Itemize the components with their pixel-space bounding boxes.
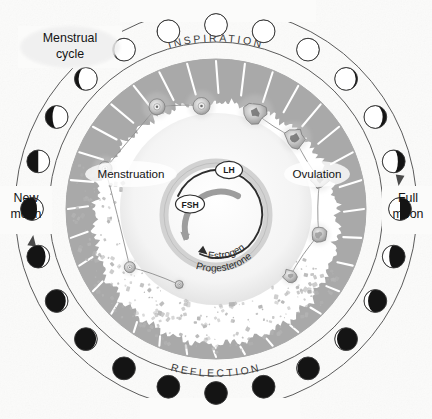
shed-tissue-fragment — [156, 304, 159, 306]
follicle-graafian — [185, 89, 219, 123]
lh-label: LH — [223, 165, 234, 175]
moon-waxing-crescent-4 — [45, 290, 68, 313]
moon-waxing-crescent-2 — [113, 357, 136, 380]
shed-tissue-fragment — [270, 330, 274, 335]
shed-tissue-fragment — [300, 315, 304, 319]
shed-tissue-fragment — [184, 345, 189, 349]
shed-tissue-fragment — [129, 281, 132, 284]
moon-waxing-crescent-5 — [27, 245, 50, 268]
follicle-primordial — [171, 277, 187, 293]
moon-waning-gibbous-5 — [382, 150, 405, 173]
title-label-group: Menstrual cycle — [20, 26, 120, 68]
moon-new-moon — [205, 382, 228, 405]
shed-tissue-fragment — [91, 233, 93, 235]
shed-tissue-fragment — [96, 290, 101, 294]
shed-tissue-fragment — [147, 329, 151, 332]
new-moon-label-line2: moon — [11, 207, 42, 221]
corpus-luteum-early — [277, 120, 313, 156]
moon-waning-gibbous-4 — [364, 106, 387, 129]
corpus-albicans — [278, 264, 302, 288]
moon-waning-gibbous-3 — [335, 67, 358, 90]
diagram-canvas: INSPIRATION REFLECTION — [0, 0, 432, 419]
title-line-1: Menstrual — [43, 31, 97, 45]
menstrual-moon-cycle-diagram: INSPIRATION REFLECTION — [0, 0, 432, 419]
shed-tissue-fragment — [271, 286, 274, 290]
shed-tissue-fragment — [276, 332, 280, 336]
fsh-marker: FSH — [176, 195, 205, 213]
full-moon-label-line2: moon — [393, 207, 424, 221]
shed-tissue-fragment — [274, 294, 279, 299]
follicle-primary — [119, 256, 141, 278]
moon-waning-gibbous-2 — [297, 38, 320, 61]
moon-first-quarter — [27, 150, 50, 173]
shed-tissue-fragment — [307, 290, 311, 294]
shed-tissue-fragment — [320, 301, 324, 305]
moon-waning-crescent-3 — [335, 328, 358, 351]
shed-tissue-fragment — [171, 316, 175, 320]
shed-tissue-fragment — [194, 321, 197, 324]
shed-tissue-fragment — [74, 220, 78, 224]
ovulation-label: Ovulation — [293, 167, 342, 180]
shed-tissue-fragment — [110, 217, 112, 220]
moon-waxing-gibbous-2 — [74, 67, 97, 90]
shed-tissue-fragment — [119, 187, 123, 192]
shed-tissue-fragment — [94, 259, 99, 263]
shed-tissue-fragment — [142, 325, 146, 328]
moon-waning-crescent-5 — [252, 375, 275, 398]
shed-tissue-fragment — [272, 316, 275, 319]
title-line-2: cycle — [56, 47, 84, 61]
shed-tissue-fragment — [101, 205, 104, 208]
shed-tissue-fragment — [100, 234, 102, 236]
moon-full-moon — [205, 14, 228, 37]
full-moon-label-line1: Full — [398, 191, 418, 205]
lh-marker: LH — [216, 161, 243, 178]
moon-waning-crescent-4 — [297, 357, 320, 380]
moon-waning-crescent-2 — [364, 290, 387, 313]
shed-tissue-fragment — [197, 316, 201, 320]
corpus-luteum-forming — [235, 93, 275, 133]
endometrial-gland — [343, 237, 361, 238]
shed-tissue-fragment — [155, 334, 158, 337]
moon-waning-crescent-1 — [382, 245, 405, 268]
moon-waxing-crescent-1 — [157, 375, 180, 398]
shed-tissue-fragment — [83, 197, 89, 202]
shed-tissue-fragment — [89, 238, 91, 241]
fsh-label: FSH — [181, 200, 198, 210]
moon-waning-gibbous-1 — [252, 20, 275, 43]
moon-waxing-gibbous-4 — [157, 20, 180, 43]
new-moon-label-line1: New — [14, 191, 39, 205]
shed-tissue-fragment — [124, 285, 126, 287]
shed-tissue-fragment — [312, 268, 314, 270]
follicle-tertiary — [141, 91, 173, 123]
corpus-luteum-regressing — [305, 220, 334, 249]
menstruation-label: Menstruation — [97, 167, 164, 180]
shed-tissue-fragment — [310, 273, 314, 276]
moon-waxing-crescent-3 — [74, 328, 97, 351]
moon-waxing-gibbous-1 — [45, 106, 68, 129]
endometrial-gland — [159, 336, 160, 345]
